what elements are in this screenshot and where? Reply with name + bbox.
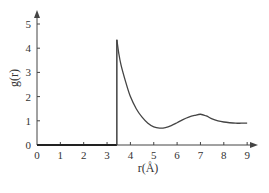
series	[37, 40, 247, 145]
x-tick-label: 4	[128, 149, 134, 161]
x-axis-label: r(Å)	[138, 161, 159, 175]
series-curve	[117, 40, 247, 128]
y-axis-arrow	[34, 10, 40, 18]
rdf-chart: 0123456789012345 r(Å) g(r)	[0, 0, 269, 193]
ticks: 0123456789012345	[26, 18, 251, 161]
x-axis-arrow	[250, 142, 258, 148]
x-tick-label: 1	[58, 149, 64, 161]
x-tick-label: 8	[221, 149, 227, 161]
y-tick-label: 0	[26, 139, 32, 151]
axes	[34, 10, 258, 148]
y-tick-label: 5	[26, 18, 32, 30]
x-tick-label: 2	[81, 149, 87, 161]
y-tick-label: 2	[26, 91, 32, 103]
x-tick-label: 0	[34, 149, 40, 161]
x-tick-label: 5	[151, 149, 157, 161]
y-axis-label: g(r)	[7, 69, 21, 87]
x-tick-label: 3	[104, 149, 110, 161]
x-tick-label: 7	[198, 149, 204, 161]
y-tick-label: 3	[26, 66, 32, 78]
y-tick-label: 4	[26, 42, 32, 54]
y-tick-label: 1	[26, 115, 32, 127]
x-tick-label: 9	[244, 149, 250, 161]
x-tick-label: 6	[174, 149, 180, 161]
